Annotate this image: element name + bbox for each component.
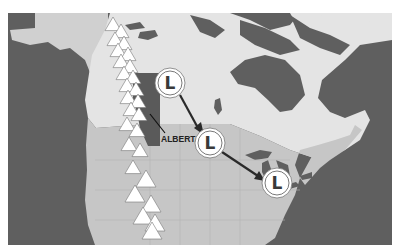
weather-map: ALBERTA LLL xyxy=(0,0,400,250)
low-pressure-icon: L xyxy=(262,168,292,198)
low-pressure-icon: L xyxy=(155,68,185,98)
low-pressure-symbol: L xyxy=(272,173,283,193)
low-pressure-icon: L xyxy=(195,128,225,158)
low-pressure-symbol: L xyxy=(205,133,216,153)
low-pressure-symbol: L xyxy=(165,73,176,93)
